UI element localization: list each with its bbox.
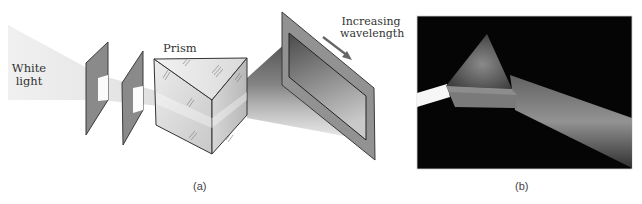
glass-prism	[154, 58, 247, 154]
panel-a-caption: (a)	[193, 180, 206, 192]
panel-a-diagram	[8, 12, 375, 160]
prism-label: Prism	[163, 41, 197, 55]
increasing-wavelength-label: Increasing wavelength	[340, 16, 402, 40]
panel-b-photo	[417, 16, 632, 169]
aperture-slit	[133, 86, 143, 113]
aperture-plate-2	[122, 51, 143, 145]
white-light-label-line2: light	[10, 75, 48, 88]
aperture-plate-1	[86, 42, 108, 135]
aperture-slit	[98, 75, 108, 101]
prism-dispersion-figure: White light Prism Increasing wavelength …	[0, 0, 642, 204]
panel-b-caption: (b)	[515, 180, 528, 192]
figure-graphics	[0, 0, 642, 204]
white-light-label: White light	[10, 62, 48, 88]
increasing-label-line2: wavelength	[340, 28, 402, 40]
